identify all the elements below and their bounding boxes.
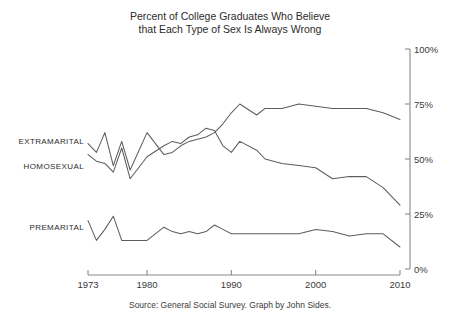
x-axis-tick-label: 1980 — [136, 279, 157, 290]
chart-title-line-1: Percent of College Graduates Who Believe — [130, 10, 330, 22]
y-axis-tick-label: 100% — [414, 44, 439, 55]
series-label-homosexual: HOMOSEXUAL — [24, 162, 85, 171]
x-axis-tick-label: 2010 — [389, 279, 410, 290]
series-label-premarital: PREMARITAL — [29, 223, 84, 232]
source-caption: Source: General Social Survey. Graph by … — [129, 300, 331, 310]
chart-container: Percent of College Graduates Who Believe… — [0, 0, 460, 327]
y-axis-tick-label: 50% — [414, 154, 434, 165]
line-chart: Percent of College Graduates Who Believe… — [0, 0, 460, 327]
chart-title-line-2: that Each Type of Sex Is Always Wrong — [139, 23, 322, 35]
y-axis-tick-label: 0% — [414, 264, 428, 275]
series-label-extramarital: EXTRAMARITAL — [18, 137, 84, 146]
y-axis-tick-label: 25% — [414, 209, 434, 220]
x-axis-tick-label: 1973 — [77, 279, 98, 290]
x-axis-tick-label: 1990 — [221, 279, 242, 290]
x-axis-tick-label: 2000 — [305, 279, 326, 290]
y-axis-tick-label: 75% — [414, 99, 434, 110]
